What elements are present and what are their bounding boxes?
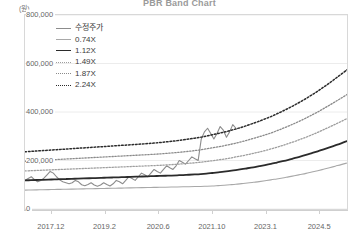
x-axis-tick-label: 2024.5 [308,222,331,231]
x-axis-tick-label: 2017.12 [37,222,64,231]
chart-legend: 수정주가0.74X1.12X1.49X1.87X2.24X [56,22,103,90]
legend-item[interactable]: 1.49X [56,56,103,67]
y-axis-tick-label: 400,000 [26,107,55,116]
x-axis-tick [51,210,52,214]
legend-item[interactable]: 2.24X [56,79,103,90]
legend-item[interactable]: 0.74X [56,33,103,44]
x-axis-tick-label: 2019.2 [93,222,116,231]
y-axis-tick-label: 800,000 [26,10,55,19]
legend-label: 1.49X [75,56,96,67]
legend-label: 0.74X [75,34,96,45]
pbr-band-chart: PBR Band Chart (원) 0200,000400,000600,00… [0,0,359,244]
y-axis-tick-label: 200,000 [26,155,55,164]
legend-swatch-dotted-icon [56,58,71,66]
x-axis-line [24,210,348,211]
x-axis-tick-label: 2023.1 [254,222,277,231]
legend-item[interactable]: 수정주가 [56,22,103,33]
x-axis-tick-label: 2020.6 [147,222,170,231]
x-axis-tick-label: 2021.10 [198,222,225,231]
legend-label: 2.24X [75,79,96,90]
x-axis-tick [212,210,213,214]
y-axis-tick-label: 0 [26,204,32,213]
x-axis-tick [105,210,106,214]
x-axis-tick [158,210,159,214]
legend-swatch-solid-icon [56,35,71,43]
legend-item[interactable]: 1.12X [56,45,103,56]
y-axis-tick-label: 600,000 [26,58,55,67]
legend-swatch-solid-icon [56,46,71,54]
legend-swatch-dotted-icon [56,81,71,89]
legend-label: 수정주가 [75,22,103,33]
legend-swatch-solid-icon [56,24,71,32]
legend-swatch-dotted-icon [56,69,71,77]
series-line [25,163,347,190]
legend-item[interactable]: 1.87X [56,68,103,79]
x-axis-tick [319,210,320,214]
legend-label: 1.12X [75,45,96,56]
series-line [25,95,347,162]
chart-title: PBR Band Chart [0,0,359,7]
legend-label: 1.87X [75,68,96,79]
x-axis-tick [266,210,267,214]
